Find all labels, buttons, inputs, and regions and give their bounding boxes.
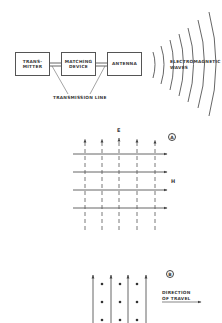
e-field-label: E (117, 128, 121, 134)
direction-of-travel-line2: OF TRAVEL (162, 296, 191, 302)
panel-b-marker-label: B (168, 272, 171, 277)
direction-of-travel-line1: DIRECTION (162, 290, 191, 296)
antenna-label: ANTENNA (112, 61, 137, 67)
e-field-lines (85, 138, 155, 230)
antenna-block: ANTENNA (107, 52, 142, 76)
h-field-arrows (73, 154, 167, 208)
transmitter-block: TRANS- MITTER (15, 52, 50, 76)
panel-b-e-arrows (93, 275, 146, 323)
matching-device-block: MATCHING DEVICE (61, 52, 96, 76)
matching-device-label: MATCHING DEVICE (65, 59, 93, 70)
transmission-line-label: TRANSMISSION LINE (53, 95, 107, 101)
panel-a-marker-label: A (170, 135, 173, 140)
transmitter-label: TRANS- MITTER (23, 59, 43, 70)
em-waves-label-line2: WAVES (170, 65, 188, 71)
panel-b-h-dots (101, 283, 139, 322)
em-wave-diagram: TRANS- MITTER MATCHING DEVICE ANTENNA TR… (0, 0, 222, 323)
diagram-lines (0, 0, 222, 323)
panel-b-marker: B (166, 270, 174, 278)
panel-a-marker: A (168, 133, 176, 141)
em-waves-label-line1: ELECTROMAGNETIC (170, 59, 221, 65)
h-field-label: H (171, 179, 175, 185)
